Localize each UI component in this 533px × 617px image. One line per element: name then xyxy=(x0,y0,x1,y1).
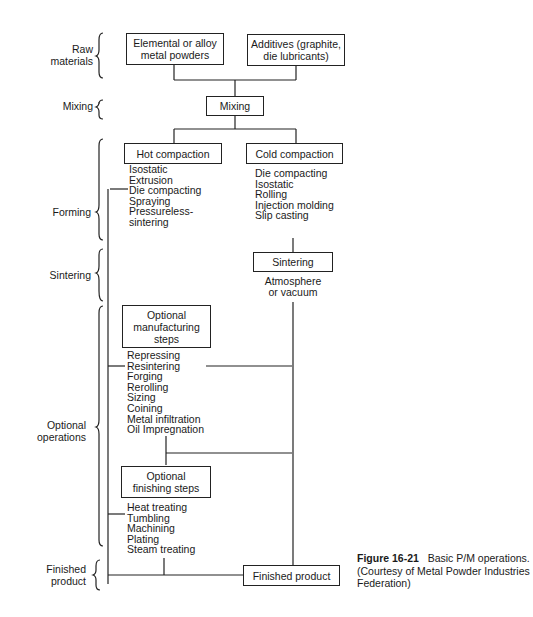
brace-sintering xyxy=(96,249,103,301)
list-optional-finishing-steps: Heat treating Tumbling Machining Plating… xyxy=(127,502,195,555)
pm-operations-diagram: Raw materials Mixing Forming Sintering O… xyxy=(0,0,533,617)
list-item: Coining xyxy=(127,403,204,414)
list-item: Isostatic xyxy=(129,164,201,175)
stage-label-forming: Forming xyxy=(1,206,91,218)
list-hot-compaction-methods: Isostatic Extrusion Die compacting Spray… xyxy=(129,164,201,228)
box-cold-compaction: Cold compaction xyxy=(246,143,343,164)
stage-label-optional-operations: Optional operations xyxy=(0,419,86,443)
figure-credit: (Courtesy of Metal Powder Industries Fed… xyxy=(357,565,530,590)
box-additives: Additives (graphite, die lubricants) xyxy=(247,34,345,66)
stage-label-finished-product: Finished product xyxy=(0,563,86,587)
list-item: Repressing xyxy=(127,350,204,361)
list-item: Steam treating xyxy=(127,544,195,555)
list-item: Heat treating xyxy=(127,502,195,513)
figure-title: Basic P/M operations. xyxy=(428,552,530,564)
box-optional-finishing-steps: Optional finishing steps xyxy=(121,466,211,498)
figure-number: Figure 16-21 xyxy=(357,552,419,564)
box-hot-compaction: Hot compaction xyxy=(124,143,222,164)
list-item: Slip casting xyxy=(255,210,334,221)
list-item: sintering xyxy=(129,217,201,228)
list-item: or vacuum xyxy=(258,287,328,298)
box-optional-manufacturing-steps: Optional manufacturing steps xyxy=(122,305,211,348)
stage-label-raw-materials: Raw materials xyxy=(3,43,93,67)
stage-label-mixing: Mixing xyxy=(3,100,93,112)
brace-mixing xyxy=(96,100,103,119)
box-elemental-metal-powders: Elemental or alloy metal powders xyxy=(126,33,224,65)
brace-finished-product xyxy=(93,560,100,590)
list-sintering-conditions: Atmosphere or vacuum xyxy=(258,276,328,297)
box-mixing: Mixing xyxy=(206,96,264,116)
list-item: Die compacting xyxy=(255,168,334,179)
list-cold-compaction-methods: Die compacting Isostatic Rolling Injecti… xyxy=(255,168,334,221)
brace-forming xyxy=(96,139,103,240)
stage-label-sintering: Sintering xyxy=(1,269,91,281)
list-item: Oil Impregnation xyxy=(127,424,204,435)
brace-raw-materials xyxy=(96,33,103,78)
brace-optional-operations xyxy=(96,306,103,546)
connector-lines xyxy=(0,0,533,617)
list-optional-manufacturing-steps: Repressing Resintering Forging Rerolling… xyxy=(127,350,204,435)
box-finished-product: Finished product xyxy=(243,565,340,586)
box-sintering: Sintering xyxy=(253,252,333,272)
figure-caption: Figure 16-21 Basic P/M operations. (Cour… xyxy=(357,552,533,590)
list-item: Atmosphere xyxy=(258,276,328,287)
